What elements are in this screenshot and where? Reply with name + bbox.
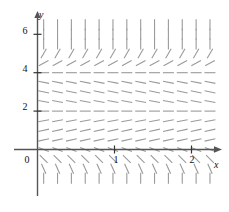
slope-segment: [135, 81, 146, 83]
slope-segment: [38, 91, 49, 93]
slope-segment: [81, 155, 89, 163]
slope-segment: [40, 155, 48, 163]
slope-segment: [66, 81, 77, 83]
slope-segment: [38, 129, 49, 131]
slope-segment: [52, 101, 63, 103]
slope-segment: [149, 129, 160, 131]
slope-segment: [205, 139, 216, 141]
slope-segment: [191, 139, 202, 141]
slope-segment: [194, 164, 198, 174]
slope-segment: [135, 120, 146, 122]
y-tick-label-4: 4: [20, 64, 30, 74]
slope-segment: [52, 120, 63, 122]
slope-segment: [55, 164, 59, 174]
slope-segment: [152, 164, 156, 174]
slope-segment: [151, 155, 159, 163]
slope-segment: [124, 49, 129, 59]
slope-segment: [110, 49, 115, 59]
slope-segment: [67, 155, 75, 163]
slope-segment: [166, 49, 171, 59]
x-tick-label-2: 2: [187, 155, 197, 165]
slope-segment: [163, 91, 174, 93]
slope-segment: [41, 164, 45, 174]
slope-segment: [123, 155, 131, 163]
slope-segment: [121, 129, 132, 131]
slope-segment: [80, 81, 91, 83]
slope-segment: [111, 164, 115, 174]
slope-segment: [208, 164, 212, 174]
slope-segment: [94, 91, 105, 93]
slope-segment: [191, 129, 202, 131]
slope-segment: [52, 139, 63, 141]
y-tick-label-2: 2: [20, 102, 30, 112]
slope-segment: [135, 91, 146, 93]
slope-segment: [191, 60, 201, 65]
x-axis-arrow: [214, 146, 222, 152]
y-axis-label: y: [39, 10, 43, 20]
slope-segment: [135, 101, 146, 103]
slope-segment: [207, 49, 212, 59]
slope-segment: [178, 155, 186, 163]
slope-segment: [177, 120, 188, 122]
slope-segment: [80, 129, 91, 131]
slope-segment: [193, 49, 198, 59]
slope-segment: [180, 164, 184, 174]
slope-segment: [94, 120, 105, 122]
slope-segment: [94, 139, 105, 141]
slope-segment: [108, 101, 119, 103]
slope-segment: [205, 101, 216, 103]
slope-segment: [80, 91, 91, 93]
slope-segment: [54, 155, 62, 163]
slope-segment: [108, 139, 119, 141]
slope-segment: [163, 139, 174, 141]
slope-segment: [38, 139, 49, 141]
slope-segment: [177, 129, 188, 131]
slope-segment: [52, 129, 63, 131]
slope-segment: [66, 129, 77, 131]
slope-segment: [205, 120, 216, 122]
slope-segment: [108, 129, 119, 131]
slope-segment: [108, 60, 118, 65]
slope-segment: [66, 120, 77, 122]
slope-segment: [205, 60, 215, 65]
slope-segment: [80, 120, 91, 122]
origin-label: 0: [22, 155, 32, 165]
slope-segment: [191, 91, 202, 93]
slope-segment: [149, 81, 160, 83]
slope-segment: [150, 60, 160, 65]
slope-field-figure: y x 6 4 2 0 1 2: [0, 0, 229, 212]
slope-segment: [177, 81, 188, 83]
slope-segment: [95, 155, 103, 163]
slope-segment: [205, 81, 216, 83]
slope-segment: [135, 129, 146, 131]
slope-segment: [136, 60, 146, 65]
slope-segment: [94, 81, 105, 83]
slope-segment: [53, 60, 63, 65]
slope-segment: [164, 60, 174, 65]
slope-segment: [206, 155, 214, 163]
axis-lines: [14, 11, 222, 196]
slope-segment: [191, 81, 202, 83]
slope-segment: [38, 120, 49, 122]
x-tick-label-1: 1: [111, 155, 121, 165]
slope-segment: [152, 49, 157, 59]
slope-segment: [165, 155, 173, 163]
slope-segment: [191, 101, 202, 103]
slope-segment: [149, 91, 160, 93]
slope-segment: [69, 164, 73, 174]
slope-segment: [177, 101, 188, 103]
slope-segment: [191, 120, 202, 122]
slope-segment: [80, 101, 91, 103]
slope-segment: [163, 101, 174, 103]
slope-segment: [38, 101, 49, 103]
slope-segment: [67, 60, 77, 65]
slope-segment: [80, 139, 91, 141]
slope-segment: [52, 81, 63, 83]
slope-segment: [83, 49, 88, 59]
slope-segment: [121, 139, 132, 141]
slope-segment: [94, 101, 105, 103]
slope-segment: [38, 81, 49, 83]
slope-segment: [205, 129, 216, 131]
slope-segment: [163, 120, 174, 122]
y-tick-label-6: 6: [20, 26, 30, 36]
